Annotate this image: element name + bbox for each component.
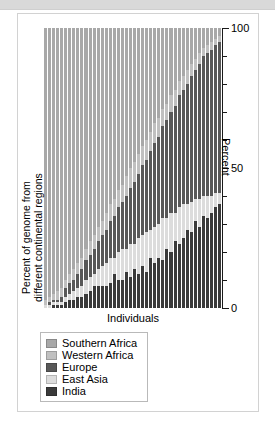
legend-label: Southern Africa <box>62 337 137 349</box>
legend-swatch-icon <box>46 387 57 396</box>
segment-europe <box>113 216 116 258</box>
segment-western-africa <box>182 76 185 90</box>
segment-southern-africa <box>198 28 201 53</box>
segment-southern-africa <box>129 28 132 168</box>
segment-india <box>165 249 168 308</box>
segment-india <box>84 294 87 308</box>
segment-western-africa <box>133 162 136 182</box>
stacked-bar-chart <box>44 28 222 308</box>
x-axis-title: Individuals <box>44 312 222 324</box>
y-axis-title: Percent of genome from different contine… <box>20 173 44 302</box>
segment-europe <box>190 76 193 202</box>
segment-east-asia <box>149 230 152 258</box>
segment-europe <box>194 70 197 199</box>
segment-europe <box>117 207 120 252</box>
segment-southern-africa <box>178 28 181 81</box>
segment-southern-africa <box>202 28 205 48</box>
segment-europe <box>76 274 79 288</box>
segment-india <box>161 260 164 308</box>
segment-east-asia <box>178 207 181 243</box>
segment-southern-africa <box>137 28 140 154</box>
segment-europe <box>174 106 177 212</box>
segment-india <box>56 305 59 308</box>
segment-western-africa <box>194 59 197 70</box>
segment-east-asia <box>137 238 140 274</box>
axis-tick-30 <box>222 224 227 225</box>
segment-east-asia <box>174 213 177 241</box>
segment-western-africa <box>174 90 177 107</box>
segment-southern-africa <box>125 28 128 176</box>
legend-swatch-icon <box>46 339 57 348</box>
segment-east-asia <box>186 204 189 229</box>
segment-southern-africa <box>101 28 104 221</box>
segment-india <box>89 291 92 308</box>
segment-southern-africa <box>117 28 120 190</box>
axis-tick-40 <box>222 196 227 197</box>
segment-india <box>60 305 63 308</box>
segment-india <box>137 274 140 308</box>
segment-east-asia <box>157 224 160 258</box>
segment-southern-africa <box>80 28 83 258</box>
segment-southern-africa <box>194 28 197 59</box>
segment-east-asia <box>84 280 87 294</box>
segment-western-africa <box>145 140 148 160</box>
segment-southern-africa <box>52 28 55 294</box>
segment-western-africa <box>76 263 79 274</box>
legend-label: Europe <box>62 361 97 373</box>
segment-southern-africa <box>113 28 116 199</box>
segment-europe <box>129 188 132 244</box>
axis-tick-label-0: 0 <box>231 303 237 314</box>
segment-europe <box>133 182 136 244</box>
segment-southern-africa <box>97 28 100 227</box>
segment-india <box>190 232 193 308</box>
segment-southern-africa <box>161 28 164 109</box>
segment-east-asia <box>198 199 201 227</box>
segment-western-africa <box>117 190 120 207</box>
segment-europe <box>137 174 140 238</box>
segment-india <box>76 297 79 308</box>
segment-europe <box>178 95 181 207</box>
segment-east-asia <box>182 204 185 238</box>
segment-western-africa <box>72 269 75 280</box>
segment-east-asia <box>72 291 75 299</box>
segment-east-asia <box>101 266 104 286</box>
segment-southern-africa <box>68 28 71 274</box>
segment-india <box>109 283 112 308</box>
segment-india <box>182 238 185 308</box>
segment-europe <box>202 56 205 196</box>
segment-east-asia <box>210 196 213 213</box>
segment-western-africa <box>186 70 189 84</box>
axis-tick-100 <box>222 28 229 29</box>
segment-western-africa <box>149 132 152 152</box>
segment-east-asia <box>190 202 193 233</box>
segment-southern-africa <box>84 28 87 249</box>
segment-india <box>210 213 213 308</box>
segment-east-asia <box>165 218 168 249</box>
segment-india <box>186 230 189 308</box>
segment-east-asia <box>218 193 221 204</box>
legend-item-europe: Europe <box>46 361 137 373</box>
segment-india <box>174 241 177 308</box>
segment-southern-africa <box>153 28 156 123</box>
segment-southern-africa <box>76 28 79 263</box>
segment-europe <box>109 221 112 257</box>
segment-east-asia <box>153 227 156 263</box>
segment-europe <box>149 151 152 229</box>
axis-tick-90 <box>222 56 227 57</box>
segment-western-africa <box>125 176 128 196</box>
segment-india <box>202 216 205 308</box>
segment-east-asia <box>93 274 96 285</box>
segment-western-africa <box>109 204 112 221</box>
segment-europe <box>105 230 108 264</box>
segment-southern-africa <box>56 28 59 291</box>
segment-india <box>93 286 96 308</box>
segment-europe <box>101 235 104 266</box>
segment-western-africa <box>101 221 104 235</box>
segment-india <box>105 286 108 308</box>
segment-southern-africa <box>48 28 51 297</box>
y-axis-title-line1: Percent of genome from <box>20 173 32 302</box>
segment-western-africa <box>89 241 92 255</box>
axis-tick-20 <box>222 252 227 253</box>
segment-western-africa <box>97 227 100 241</box>
segment-india <box>141 266 144 308</box>
